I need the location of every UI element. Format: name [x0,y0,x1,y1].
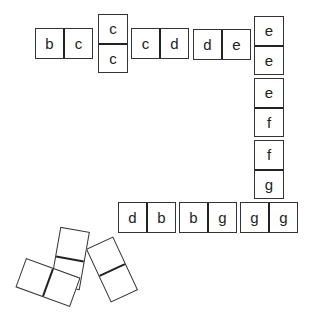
domino-half: e [255,17,283,47]
domino-c-d[interactable]: c d [131,28,189,59]
domino-half: b [148,203,175,232]
domino-half: b [36,29,65,58]
blank-domino[interactable] [86,236,138,302]
domino-half: e [223,30,250,59]
domino-half: d [194,30,223,59]
domino-board: b c c c c d d e e e e f f g d b b g g g [0,0,317,320]
domino-half: c [132,29,161,58]
domino-e-f[interactable]: e f [254,78,284,137]
domino-half: f [255,141,283,171]
domino-half: g [241,203,270,232]
domino-c-c[interactable]: c c [98,14,128,73]
domino-half: g [255,171,283,199]
domino-d-b[interactable]: d b [118,202,176,233]
domino-half: b [180,203,209,232]
domino-half: c [99,45,127,73]
domino-half [56,228,89,262]
domino-half: g [270,203,297,232]
domino-e-e[interactable]: e e [254,16,284,75]
domino-d-e[interactable]: d e [193,29,251,60]
domino-half: g [209,203,236,232]
domino-g-g[interactable]: g g [240,202,298,233]
domino-half: c [99,15,127,45]
domino-half: e [255,47,283,75]
domino-half: f [255,109,283,137]
domino-b-g[interactable]: b g [179,202,237,233]
domino-half: e [255,79,283,109]
domino-half: c [65,29,92,58]
domino-f-g[interactable]: f g [254,140,284,199]
domino-half: d [161,29,188,58]
domino-half: d [119,203,148,232]
domino-b-c[interactable]: b c [35,28,93,59]
